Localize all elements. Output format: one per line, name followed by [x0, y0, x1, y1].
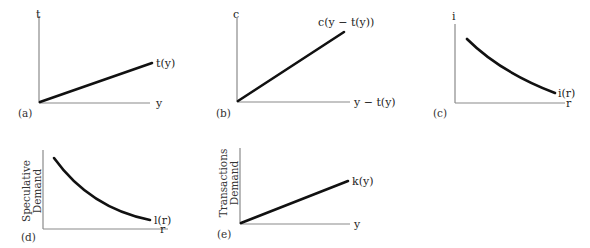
- panel-b-tag: (b): [216, 107, 231, 119]
- panel-c-curve: [467, 39, 555, 93]
- panel-d-curve: [54, 158, 150, 220]
- panel-a-curve: [40, 63, 152, 102]
- panel-b-curve-label: c(y − t(y)): [318, 16, 374, 29]
- panel-d-y-label-line2: Demand: [31, 169, 43, 214]
- panel-a-tag: (a): [18, 107, 32, 119]
- panel-c: i r i(r) (c): [433, 10, 575, 119]
- panel-e-y-label-line2: Demand: [228, 161, 240, 206]
- panel-b-x-label: y − t(y): [353, 96, 396, 109]
- panel-e-curve-label: k(y): [352, 175, 373, 188]
- panel-e: Transactions Demand y k(y) (e): [217, 148, 373, 240]
- panel-c-y-label: i: [452, 10, 456, 23]
- panel-e-y-label: Transactions Demand: [217, 149, 240, 218]
- panel-d: Speculative Demand r l(r) (d): [20, 150, 171, 243]
- panel-a: t y t(y) (a): [18, 8, 175, 119]
- panel-b: c y − t(y) c(y − t(y)) (b): [216, 8, 396, 119]
- panel-b-curve: [238, 32, 344, 101]
- panel-a-curve-label: t(y): [156, 57, 175, 70]
- panel-e-curve: [241, 181, 348, 223]
- panel-e-x-label: y: [353, 218, 361, 231]
- panel-d-y-label: Speculative Demand: [20, 160, 43, 222]
- panel-d-curve-label: l(r): [154, 214, 171, 227]
- panel-a-y-label: t: [36, 8, 41, 21]
- panel-c-tag: (c): [433, 107, 447, 119]
- panel-d-tag: (d): [21, 231, 36, 243]
- panel-b-y-label: c: [233, 8, 239, 21]
- figure-canvas: t y t(y) (a) c y − t(y) c(y − t(y)) (b) …: [0, 0, 590, 248]
- panel-a-x-label: y: [155, 97, 163, 110]
- panel-c-curve-label: i(r): [558, 87, 575, 100]
- panel-e-tag: (e): [217, 228, 231, 240]
